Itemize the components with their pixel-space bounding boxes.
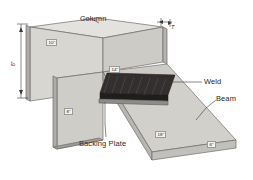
dimension-label-column-height: 8"	[10, 61, 16, 66]
callout-backing-plate: Backing Plate	[79, 139, 126, 148]
column-lower-left-edge	[53, 76, 57, 149]
dimension-label-beam-end-width: 6"	[207, 141, 216, 148]
callout-weld: Weld	[204, 77, 221, 86]
dimension-flange-thickness	[157, 18, 172, 27]
dimension-label-beam-length: 18"	[155, 131, 166, 138]
callout-beam: Beam	[216, 94, 236, 103]
dimension-label-column-face-width: 10"	[46, 39, 57, 46]
leader-backing-plate	[105, 102, 106, 137]
dimension-label-column-lower-height: 8"	[64, 108, 73, 115]
column-right-edge	[163, 27, 167, 64]
callout-column: Column	[80, 14, 106, 23]
column-left-edge	[26, 25, 30, 101]
figure-canvas: Column Weld Beam Backing Plate 10" 14" 8…	[0, 0, 253, 180]
dimension-label-flange-thickness: T	[171, 24, 174, 30]
dimension-label-beam-flange-width: 14"	[109, 66, 120, 73]
connection-isometric-drawing	[0, 0, 253, 180]
weld-bead-top	[100, 73, 175, 95]
